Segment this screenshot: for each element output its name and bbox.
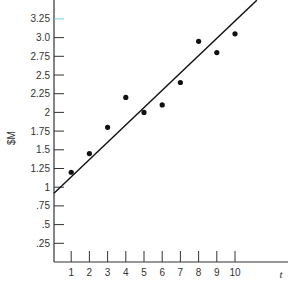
- data-point: [141, 110, 146, 115]
- y-tick-label: 1.25: [31, 163, 51, 174]
- y-tick-label: 1.75: [31, 126, 51, 137]
- y-tick-label: 3.25: [31, 13, 51, 24]
- y-tick-label: 3.0: [36, 32, 50, 43]
- scatter-chart: .25.5.7511.251.51.7522.252.52.753.03.25 …: [0, 0, 297, 292]
- data-point: [123, 95, 128, 100]
- y-axis-title: $M: [6, 131, 17, 145]
- x-tick-label: 1: [68, 267, 74, 278]
- y-tick-label: .75: [36, 200, 50, 211]
- data-point: [214, 50, 219, 55]
- data-point: [232, 31, 237, 36]
- data-point: [69, 170, 74, 175]
- data-points: [69, 31, 238, 175]
- y-tick-label: 1: [44, 182, 50, 193]
- y-tick-label: .5: [42, 219, 51, 230]
- x-tick-label: 7: [178, 267, 184, 278]
- y-tick-label: 2: [44, 107, 50, 118]
- y-tick-label: 2.75: [31, 51, 51, 62]
- data-point: [196, 39, 201, 44]
- y-axis: .25.5.7511.251.51.7522.252.52.753.03.25: [31, 0, 64, 262]
- y-tick-label: .25: [36, 238, 50, 249]
- x-tick-label: 4: [123, 267, 129, 278]
- x-axis: 12345678910: [54, 251, 288, 278]
- x-tick-label: 3: [105, 267, 111, 278]
- x-tick-label: 5: [141, 267, 147, 278]
- x-tick-label: 2: [87, 267, 93, 278]
- data-point: [105, 125, 110, 130]
- x-tick-label: 10: [229, 267, 241, 278]
- trend-line: [54, 0, 257, 193]
- y-tick-label: 2.25: [31, 88, 51, 99]
- x-tick-label: 8: [196, 267, 202, 278]
- x-tick-label: 9: [214, 267, 220, 278]
- data-point: [87, 151, 92, 156]
- data-point: [160, 102, 165, 107]
- y-tick-label: 1.5: [36, 144, 50, 155]
- regression-line: [54, 0, 257, 193]
- x-axis-title: t: [279, 268, 283, 280]
- y-tick-label: 2.5: [36, 70, 50, 81]
- data-point: [178, 80, 183, 85]
- x-tick-label: 6: [159, 267, 165, 278]
